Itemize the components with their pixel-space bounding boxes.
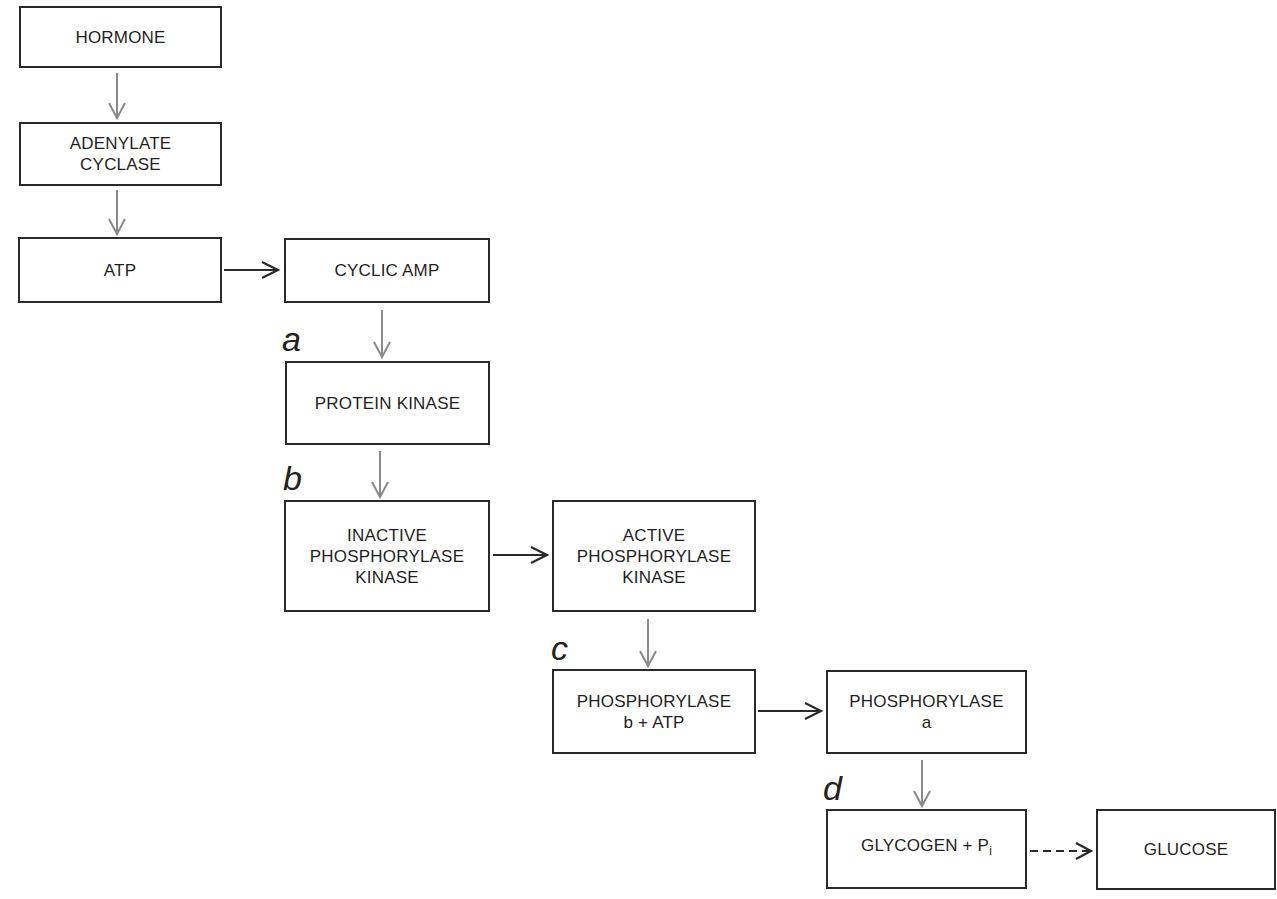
gray-arrows — [109, 73, 930, 806]
node-label: GLYCOGEN + Pi — [861, 835, 992, 862]
node-label-subscript: i — [989, 845, 992, 859]
node-label: GLUCOSE — [1144, 839, 1229, 860]
step-label-a: a — [282, 322, 301, 356]
node-inactive-phosphorylase-kinase: INACTIVE PHOSPHORYLASE KINASE — [284, 500, 490, 612]
node-glycogen-pi: GLYCOGEN + Pi — [826, 809, 1027, 889]
step-label-c: c — [551, 631, 568, 665]
step-label-d: d — [823, 771, 842, 805]
node-phosphorylase-a: PHOSPHORYLASE a — [826, 670, 1027, 754]
node-label: PROTEIN KINASE — [315, 393, 460, 414]
node-active-phosphorylase-kinase: ACTIVE PHOSPHORYLASE KINASE — [552, 500, 756, 612]
node-label: CYCLIC AMP — [335, 260, 440, 281]
node-glucose: GLUCOSE — [1096, 809, 1276, 890]
node-label: ADENYLATE CYCLASE — [70, 133, 172, 175]
node-label-main: GLYCOGEN + P — [861, 836, 989, 855]
node-protein-kinase: PROTEIN KINASE — [285, 361, 490, 445]
node-label: PHOSPHORYLASE b + ATP — [577, 691, 731, 733]
node-hormone: HORMONE — [19, 6, 222, 68]
node-phosphorylase-b-atp: PHOSPHORYLASE b + ATP — [552, 669, 756, 754]
node-label: ATP — [104, 260, 136, 281]
node-adenylate-cyclase: ADENYLATE CYCLASE — [19, 122, 222, 186]
node-label: ACTIVE PHOSPHORYLASE KINASE — [577, 525, 731, 588]
node-label: INACTIVE PHOSPHORYLASE KINASE — [310, 525, 464, 588]
node-cyclic-amp: CYCLIC AMP — [284, 238, 490, 303]
step-label-b: b — [283, 461, 302, 495]
node-label: HORMONE — [75, 27, 165, 48]
node-label: PHOSPHORYLASE a — [849, 691, 1003, 733]
node-atp: ATP — [18, 237, 222, 303]
